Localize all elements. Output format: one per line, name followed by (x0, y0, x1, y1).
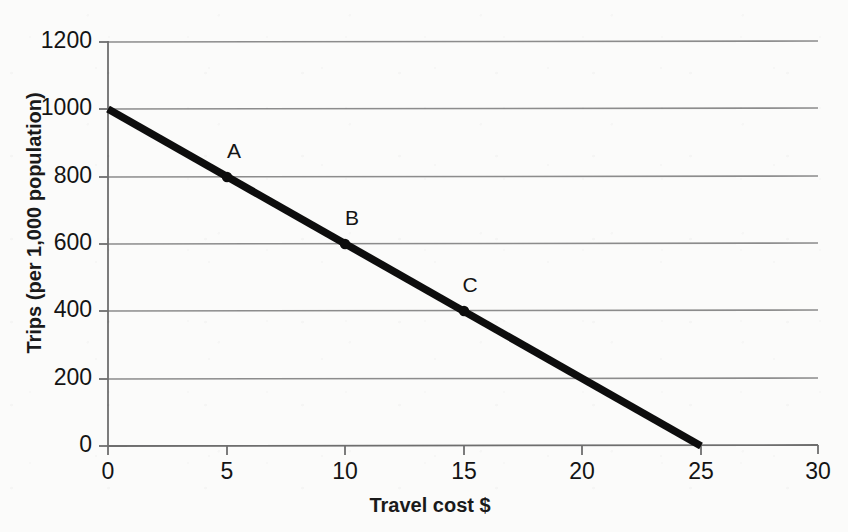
x-axis-line (108, 445, 818, 446)
gridline-1200 (108, 41, 818, 42)
chart-figure: 1200 1000 800 600 400 200 0 0 5 10 15 20… (0, 0, 848, 532)
series-line-trip-demand (108, 109, 701, 446)
y-tick-label-0: 0 (79, 431, 92, 457)
gridline-600 (108, 243, 818, 244)
y-tick-label-800: 800 (54, 162, 92, 188)
point-label-b: B (345, 206, 359, 229)
x-tick-label-0: 0 (102, 458, 115, 484)
gridlines (108, 41, 818, 379)
x-tick-label-10: 10 (332, 458, 358, 484)
x-tick-label-30: 30 (805, 458, 831, 484)
y-tick-marks (99, 42, 108, 446)
chart-plot-area: 1200 1000 800 600 400 200 0 0 5 10 15 20… (0, 0, 848, 532)
x-tick-label-5: 5 (221, 458, 234, 484)
x-tick-label-15: 15 (451, 458, 477, 484)
gridline-800 (108, 176, 818, 177)
point-label-a: A (227, 139, 241, 162)
data-point-c (459, 306, 469, 316)
point-label-c: C (462, 273, 477, 296)
data-point-a (222, 172, 232, 182)
gridline-200 (108, 378, 818, 379)
x-tick-labels: 0 5 10 15 20 25 30 (102, 458, 831, 484)
y-axis-title: Trips (per 1,000 population) (14, 0, 54, 446)
x-tick-label-25: 25 (688, 458, 714, 484)
data-point-b (340, 239, 350, 249)
y-tick-label-200: 200 (54, 364, 92, 390)
x-axis-title: Travel cost $ (108, 494, 752, 517)
x-tick-label-20: 20 (569, 458, 595, 484)
point-annotations: A B C (227, 139, 478, 296)
y-tick-label-400: 400 (54, 296, 92, 322)
gridline-1000 (108, 108, 818, 109)
y-tick-label-600: 600 (54, 229, 92, 255)
